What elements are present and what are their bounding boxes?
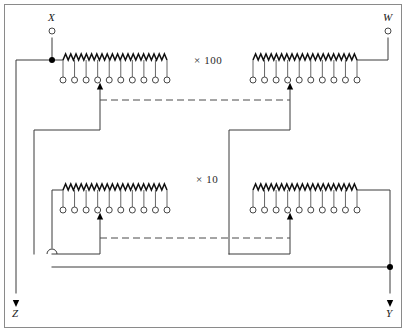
tap-terminal[interactable] — [354, 207, 360, 213]
tap-terminal[interactable] — [308, 207, 314, 213]
tap-terminal[interactable] — [118, 77, 124, 83]
tap-terminal[interactable] — [296, 77, 302, 83]
junction-x-bus — [49, 57, 55, 63]
wiper-arrow[interactable] — [97, 213, 103, 220]
tap-terminal[interactable] — [95, 207, 101, 213]
tap-terminal[interactable] — [72, 77, 78, 83]
wire-top-right-wiper — [229, 84, 290, 254]
tap-terminal[interactable] — [83, 207, 89, 213]
wire-bottom-left-wiper — [52, 214, 100, 254]
arrow-y — [387, 300, 393, 307]
tap-terminal[interactable] — [83, 77, 89, 83]
bottom-left-resistor-ladder[interactable] — [60, 184, 170, 220]
resistor-body — [253, 54, 357, 60]
tap-terminal[interactable] — [285, 207, 291, 213]
resistor-body — [63, 184, 167, 190]
wire-bottom-left-in — [52, 190, 63, 248]
tap-terminal[interactable] — [141, 77, 147, 83]
gang-linkage-layer — [100, 100, 290, 238]
tap-terminal[interactable] — [273, 77, 279, 83]
tap-terminal[interactable] — [152, 207, 158, 213]
node-label-y: Y — [386, 307, 394, 319]
tap-terminal[interactable] — [106, 207, 112, 213]
terminal-x[interactable] — [49, 28, 55, 34]
wiper-arrow[interactable] — [97, 83, 103, 90]
tap-terminal[interactable] — [60, 77, 66, 83]
tap-terminal[interactable] — [342, 77, 348, 83]
tap-terminal[interactable] — [250, 77, 256, 83]
annotation-mult-100: × 100 — [194, 54, 222, 66]
annotation-mult-10: × 10 — [196, 173, 218, 185]
junction-y-bus — [387, 264, 393, 270]
tap-terminal[interactable] — [319, 77, 325, 83]
wire-hop-left-bus — [47, 249, 57, 254]
wire-bottom-right-out — [357, 190, 390, 293]
arrow-z — [13, 300, 19, 307]
tap-terminal[interactable] — [164, 207, 170, 213]
node-label-w: W — [383, 11, 393, 23]
tap-terminal[interactable] — [95, 77, 101, 83]
circuit-diagram: XWZY× 100× 10 — [0, 0, 406, 332]
tap-terminal[interactable] — [129, 77, 135, 83]
wiper-arrow[interactable] — [287, 83, 293, 90]
tap-terminal[interactable] — [308, 77, 314, 83]
tap-terminal[interactable] — [60, 207, 66, 213]
resistor-body — [253, 184, 357, 190]
node-label-x: X — [47, 11, 56, 23]
tap-terminal[interactable] — [164, 77, 170, 83]
wiper-arrow[interactable] — [287, 213, 293, 220]
resistor-ladder-layer — [60, 54, 360, 220]
tap-terminal[interactable] — [72, 207, 78, 213]
tap-terminal[interactable] — [250, 207, 256, 213]
terminal-layer — [13, 28, 393, 307]
tap-terminal[interactable] — [118, 207, 124, 213]
tap-terminal[interactable] — [106, 77, 112, 83]
tap-terminal[interactable] — [296, 207, 302, 213]
top-left-resistor-ladder[interactable] — [60, 54, 170, 90]
tap-terminal[interactable] — [273, 207, 279, 213]
terminal-w[interactable] — [385, 28, 391, 34]
tap-terminal[interactable] — [331, 77, 337, 83]
tap-terminal[interactable] — [129, 207, 135, 213]
wire-top-left-wiper — [34, 84, 100, 254]
top-right-resistor-ladder[interactable] — [250, 54, 360, 90]
diagram-border — [5, 5, 402, 328]
schematic-canvas: XWZY× 100× 10 — [0, 0, 406, 332]
tap-terminal[interactable] — [262, 77, 268, 83]
tap-terminal[interactable] — [285, 77, 291, 83]
bottom-right-resistor-ladder[interactable] — [250, 184, 360, 220]
tap-terminal[interactable] — [342, 207, 348, 213]
node-label-z: Z — [12, 307, 19, 319]
tap-terminal[interactable] — [152, 77, 158, 83]
tap-terminal[interactable] — [262, 207, 268, 213]
tap-terminal[interactable] — [331, 207, 337, 213]
wire-bottom-right-wiper — [229, 214, 290, 254]
tap-terminal[interactable] — [354, 77, 360, 83]
resistor-body — [63, 54, 167, 60]
wire-w-drop — [357, 38, 388, 60]
tap-terminal[interactable] — [141, 207, 147, 213]
tap-terminal[interactable] — [319, 207, 325, 213]
